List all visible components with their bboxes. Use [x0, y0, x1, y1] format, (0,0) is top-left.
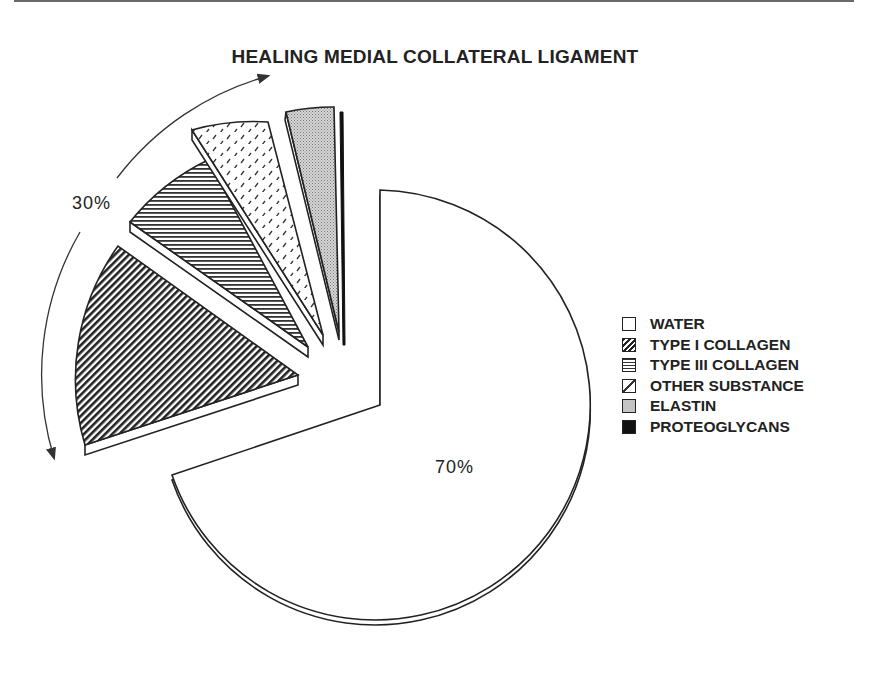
legend-label: TYPE I COLLAGEN — [650, 336, 790, 354]
legend: WATER TYPE I COLLAGEN TYPE III COLLAGEN … — [622, 314, 804, 437]
percent-arc-arrow-lower — [42, 232, 80, 458]
legend-item-type-i-collagen: TYPE I COLLAGEN — [622, 335, 804, 356]
legend-label: WATER — [650, 315, 705, 333]
slice-proteoglycans — [340, 112, 345, 345]
stipple-swatch-icon — [622, 399, 636, 413]
legend-item-other-substance: OTHER SUBSTANCE — [622, 376, 804, 397]
legend-label: OTHER SUBSTANCE — [650, 377, 804, 395]
legend-item-water: WATER — [622, 314, 804, 335]
legend-item-type-iii-collagen: TYPE III COLLAGEN — [622, 355, 804, 376]
legend-label: ELASTIN — [650, 397, 716, 415]
legend-label: PROTEOGLYCANS — [650, 418, 790, 436]
dashed-swatch-icon — [622, 379, 636, 393]
legend-label: TYPE III COLLAGEN — [650, 356, 799, 374]
legend-item-proteoglycans: PROTEOGLYCANS — [622, 417, 804, 438]
horizontal-lines-swatch-icon — [622, 358, 636, 372]
label-water-percent: 70% — [435, 457, 474, 478]
label-non-water-percent: 30% — [72, 193, 111, 214]
diagonal-hatch-swatch-icon — [622, 338, 636, 352]
water-swatch-icon — [622, 317, 636, 331]
legend-item-elastin: ELASTIN — [622, 396, 804, 417]
solid-black-swatch-icon — [622, 420, 636, 434]
